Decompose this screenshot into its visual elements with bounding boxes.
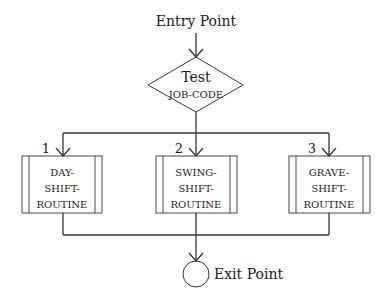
split-connector — [56, 112, 336, 156]
svg-text:SWING-: SWING- — [175, 167, 216, 178]
svg-text:SHIFT-: SHIFT- — [311, 183, 346, 194]
decision-title: Test — [181, 69, 211, 85]
process-box-grave-shift: GRAVE- SHIFT- ROUTINE — [289, 156, 370, 213]
svg-text:SHIFT-: SHIFT- — [44, 183, 79, 194]
flowchart-canvas: Entry Point Test JOB-CODE 1 2 3 DAY- SHI… — [0, 0, 389, 301]
svg-text:ROUTINE: ROUTINE — [171, 199, 222, 210]
branch-number-2: 2 — [175, 141, 183, 156]
svg-text:ROUTINE: ROUTINE — [37, 199, 88, 210]
svg-text:GRAVE-: GRAVE- — [309, 167, 349, 178]
svg-text:DAY-: DAY- — [50, 167, 74, 178]
exit-point-label: Exit Point — [214, 266, 283, 282]
merge-connector — [63, 213, 329, 261]
exit-circle — [183, 261, 209, 287]
branch-number-3: 3 — [308, 141, 316, 156]
decision-subject: JOB-CODE — [168, 89, 223, 100]
svg-text:SHIFT-: SHIFT- — [178, 183, 213, 194]
process-box-swing-shift: SWING- SHIFT- ROUTINE — [156, 156, 237, 213]
svg-text:ROUTINE: ROUTINE — [304, 199, 355, 210]
entry-point-label: Entry Point — [156, 13, 237, 29]
process-box-day-shift: DAY- SHIFT- ROUTINE — [22, 156, 102, 213]
entry-arrow — [189, 33, 203, 57]
branch-number-1: 1 — [42, 141, 50, 156]
